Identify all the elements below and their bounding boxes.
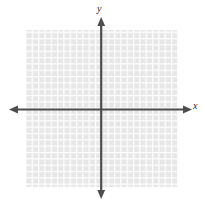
figure-canvas: y x — [0, 0, 205, 209]
x-axis-arrow-right-icon — [183, 106, 192, 114]
x-axis-label: x — [193, 101, 197, 111]
y-axis-arrow-down-icon — [97, 190, 105, 199]
y-axis-label: y — [97, 4, 101, 14]
y-axis-arrow-up-icon — [97, 17, 105, 26]
x-axis-arrow-left-icon — [9, 106, 18, 114]
coordinate-plane-graphic — [0, 0, 205, 209]
